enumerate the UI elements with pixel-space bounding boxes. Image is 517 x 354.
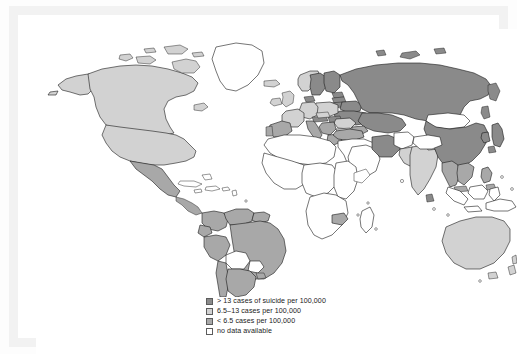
region-tasmania[interactable] — [488, 272, 498, 279]
island-dot-i — [367, 202, 369, 204]
world-map-svg: .ld { fill:#8a8a8a; stroke:#1a1a1a; stro… — [36, 29, 517, 297]
legend-label-medium-high: 6.5–13 cases per 100,000 — [217, 307, 301, 316]
region-arctic-islet-b[interactable] — [192, 52, 204, 57]
legend-swatch-medium-high — [206, 308, 213, 315]
region-finland[interactable] — [324, 71, 340, 93]
world-map[interactable]: .ld { fill:#8a8a8a; stroke:#1a1a1a; stro… — [36, 29, 517, 297]
legend-item-medium-high[interactable]: 6.5–13 cases per 100,000 — [206, 307, 446, 317]
island-dot-d — [511, 188, 514, 191]
island-dot-c — [501, 176, 504, 179]
region-severnaya-zemlya[interactable] — [434, 48, 446, 54]
region-czechia[interactable] — [316, 112, 330, 118]
legend-item-no-data[interactable]: no data available — [206, 327, 446, 337]
region-bolivia[interactable] — [226, 251, 250, 269]
map-legend: > 13 cases of suicide per 100,000 6.5–13… — [206, 297, 446, 337]
island-dot-b — [433, 208, 436, 211]
region-lesser-antilles[interactable] — [232, 190, 237, 196]
legend-label-no-data: no data available — [217, 327, 272, 336]
legend-item-high[interactable]: > 13 cases of suicide per 100,000 — [206, 297, 446, 307]
region-tibet-plateau[interactable] — [413, 135, 442, 149]
page-root: .ld { fill:#8a8a8a; stroke:#1a1a1a; stro… — [0, 0, 517, 354]
island-dot-e — [447, 214, 450, 217]
legend-swatch-no-data — [206, 328, 213, 335]
region-uruguay[interactable] — [256, 273, 266, 279]
island-dot-g — [479, 280, 482, 283]
region-portugal[interactable] — [266, 126, 273, 136]
image-frame: .ld { fill:#8a8a8a; stroke:#1a1a1a; stro… — [9, 6, 508, 347]
island-dot-h — [245, 200, 247, 202]
region-denmark[interactable] — [304, 96, 315, 102]
island-dot-a — [400, 179, 403, 182]
legend-item-low[interactable]: < 6.5 cases per 100,000 — [206, 317, 446, 327]
island-dot-j — [357, 214, 359, 216]
region-arctic-islet-a[interactable] — [144, 48, 156, 53]
region-arctic-islet-c[interactable] — [376, 50, 386, 56]
legend-label-low: < 6.5 cases per 100,000 — [217, 317, 295, 326]
legend-swatch-high — [206, 298, 213, 305]
map-plate: .ld { fill:#8a8a8a; stroke:#1a1a1a; stro… — [36, 29, 517, 354]
island-dot-f — [375, 228, 378, 231]
legend-label-high: > 13 cases of suicide per 100,000 — [217, 297, 326, 306]
legend-swatch-low — [206, 318, 213, 325]
